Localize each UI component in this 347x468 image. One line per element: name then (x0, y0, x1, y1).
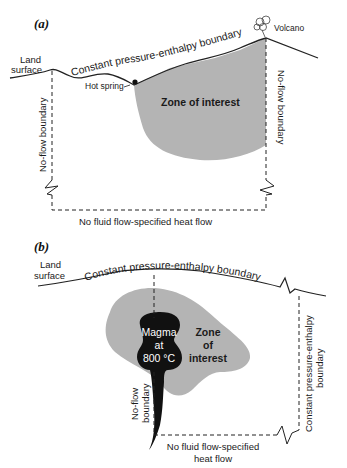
volcano-label: Volcano (274, 23, 305, 33)
hot-spring-label: Hot spring (85, 81, 124, 91)
land-surface-label-a-line2: surface (11, 64, 42, 75)
bottom-boundary-label-b-line2: heat flow (194, 453, 232, 464)
right-boundary-label-b-line2: boundary (314, 348, 325, 388)
left-boundary-label-b-line2: boundary (140, 383, 151, 423)
left-boundary-label-b-line1: No-flow (129, 388, 140, 420)
zone-of-interest-label-b-line1: Zone (195, 326, 220, 338)
hot-spring-arrow-icon (124, 85, 130, 87)
left-boundary-label-a: No-flow boundary (37, 97, 48, 172)
land-surface-line-b (38, 269, 326, 296)
zone-of-interest-label-b-line2: of (203, 339, 213, 351)
zone-of-interest-label-b-line3: interest (189, 352, 227, 364)
panel-a: (a) Hot spring Volcano Land surface Cons… (10, 16, 318, 227)
right-boundary-label-b-line1: Constant pressure-enthalpy (303, 315, 314, 432)
land-surface-label-b-line1: Land (40, 259, 61, 270)
panel-a-label: (a) (34, 16, 49, 31)
magma-label-line2: at (155, 339, 164, 351)
break-symbol-b (277, 426, 299, 444)
land-surface-label-b-line2: surface (34, 270, 65, 281)
magma-label-line3: 800 °C (143, 352, 176, 364)
geothermal-model-figure: (a) Hot spring Volcano Land surface Cons… (0, 0, 347, 468)
right-boundary-label-a: No-flow boundary (276, 70, 287, 145)
zone-of-interest-b (106, 288, 250, 396)
break-symbol-left-a (45, 180, 58, 195)
break-symbol-right-a (260, 180, 274, 195)
panel-b-label: (b) (34, 239, 49, 254)
zone-of-interest-label-a: Zone of interest (161, 96, 240, 108)
magma-label-line1: Magma (141, 326, 176, 338)
top-boundary-label-b: Constant pressure-enthalpy boundary (83, 259, 263, 283)
bottom-boundary-label-a: No fluid flow-specified heat flow (79, 216, 212, 227)
volcano-plume-icon (254, 16, 270, 37)
panel-b: (b) Land surface Constant pressure-entha… (34, 239, 326, 464)
bottom-boundary-label-b-line1: No fluid flow-specified (167, 441, 259, 452)
hot-spring-marker (132, 79, 137, 84)
